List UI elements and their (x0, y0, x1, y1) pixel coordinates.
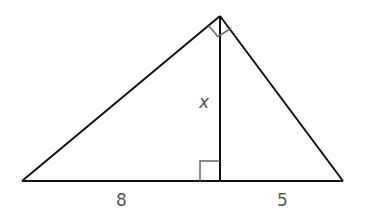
right-leg (220, 16, 343, 181)
triangle-diagram: 8 5 x (0, 0, 365, 216)
label-altitude: x (198, 92, 210, 112)
right-angle-marker-foot (200, 161, 220, 181)
label-right-segment: 5 (277, 190, 288, 210)
left-leg (22, 16, 220, 181)
label-left-segment: 8 (116, 190, 127, 210)
